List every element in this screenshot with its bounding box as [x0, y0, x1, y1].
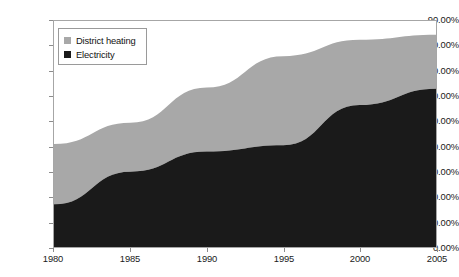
- legend-item-district-heating: District heating: [64, 33, 146, 47]
- chart-legend: District heating Electricity: [58, 28, 147, 65]
- x-tick-mark: [53, 248, 54, 252]
- legend-label-electricity: Electricity: [76, 49, 114, 60]
- x-tick-mark: [360, 248, 361, 252]
- legend-swatch-district-heating: [64, 37, 71, 44]
- x-tick-label: 1980: [33, 253, 73, 264]
- x-tick-label: 1985: [110, 253, 150, 264]
- legend-item-electricity: Electricity: [64, 47, 146, 61]
- legend-swatch-electricity: [64, 51, 71, 58]
- x-tick-label: 2005: [417, 253, 457, 264]
- x-tick-label: 2000: [340, 253, 380, 264]
- x-tick-label: 1995: [264, 253, 304, 264]
- x-tick-mark: [207, 248, 208, 252]
- x-tick-mark: [130, 248, 131, 252]
- x-tick-mark: [284, 248, 285, 252]
- x-tick-mark: [437, 248, 438, 252]
- legend-label-district-heating: District heating: [76, 35, 136, 46]
- x-tick-label: 1990: [187, 253, 227, 264]
- stacked-area-chart: 90.00% 80.00% 70.00% 60.00% 50.00% 40.00…: [0, 0, 459, 277]
